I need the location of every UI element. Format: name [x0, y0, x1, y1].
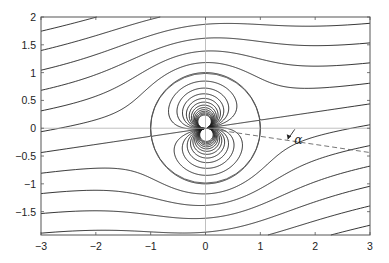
- streamline: [191, 105, 370, 235]
- y-tick-label: 0.5: [21, 94, 36, 106]
- dashed-asymptote-line: [206, 128, 371, 152]
- alpha-label: α: [294, 133, 302, 147]
- x-tick-label: 2: [312, 240, 318, 252]
- y-tick-label: −1.5: [15, 206, 36, 218]
- y-tick-label: 1.5: [21, 39, 36, 51]
- x-tick-label: −1: [145, 240, 157, 252]
- x-tick-label: 3: [367, 240, 373, 252]
- alpha-annotation: α: [287, 129, 303, 146]
- x-tick-labels: −3−2−10123: [35, 240, 373, 252]
- x-tick-label: 0: [203, 240, 209, 252]
- y-tick-label: 0: [30, 122, 36, 134]
- streamline: [200, 128, 213, 141]
- y-tick-label: 1: [30, 67, 36, 79]
- streamline: [189, 102, 370, 235]
- y-tick-label: −0.5: [15, 150, 36, 162]
- y-tick-label: −1: [24, 178, 36, 190]
- x-tick-label: −3: [35, 240, 47, 252]
- x-tick-label: 1: [257, 240, 263, 252]
- y-tick-label: 2: [30, 11, 36, 23]
- streamline-figure: α −3−2−10123 21.510.50−0.5−1−1.5: [0, 0, 389, 263]
- x-tick-label: −2: [90, 240, 102, 252]
- y-tick-labels: 21.510.50−0.5−1−1.5: [15, 11, 36, 218]
